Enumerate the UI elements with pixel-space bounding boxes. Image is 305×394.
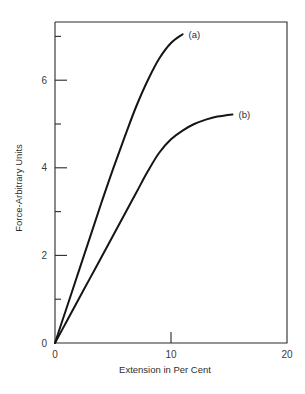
- x-tick-label: 0: [52, 349, 58, 360]
- data-series: [55, 34, 233, 343]
- y-tick-label: 0: [41, 338, 47, 349]
- axis-ticks: [55, 36, 171, 343]
- y-tick-label: 4: [41, 162, 47, 173]
- y-axis-title: Force-Arbitrary Units: [13, 144, 24, 232]
- series-b-curve: [55, 114, 233, 343]
- series-b-label: (b): [238, 109, 250, 120]
- series-labels: (a)(b): [189, 29, 251, 120]
- x-axis-title: Extension in Per Cent: [119, 364, 211, 375]
- x-tick-label: 20: [281, 349, 293, 360]
- chart: 024601020 (a)(b) Extension in Per Cent F…: [0, 0, 305, 394]
- series-a-curve: [55, 34, 183, 343]
- series-a-label: (a): [189, 29, 201, 40]
- x-tick-label: 10: [165, 349, 177, 360]
- y-tick-label: 2: [41, 250, 47, 261]
- axes-frame: [55, 22, 287, 343]
- y-tick-label: 6: [41, 75, 47, 86]
- axis-tick-labels: 024601020: [41, 75, 293, 360]
- plot-frame: [55, 22, 287, 343]
